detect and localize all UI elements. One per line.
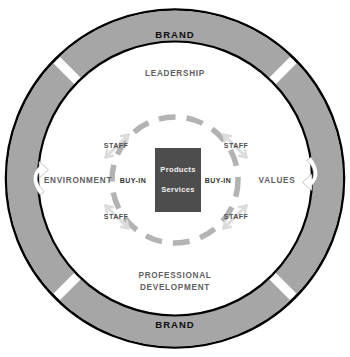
staff-label-top-right: STAFF	[224, 142, 249, 151]
professional-development-label: PROFESSIONAL DEVELOPMENT	[139, 271, 212, 294]
values-label: VALUES	[259, 176, 296, 186]
staff-label-bottom-left: STAFF	[104, 213, 129, 222]
brand-label-top: BRAND	[155, 29, 194, 41]
core-label: Products Services	[160, 165, 195, 195]
core-label-services: Services	[160, 186, 195, 195]
buyin-label-left: BUY-IN	[120, 177, 147, 186]
professional-development-line-1: PROFESSIONAL	[139, 271, 212, 281]
environment-label: ENVIRONMENT	[44, 176, 112, 186]
professional-development-line-2: DEVELOPMENT	[139, 283, 212, 293]
staff-label-top-left: STAFF	[104, 142, 129, 151]
staff-label-bottom-right: STAFF	[224, 213, 249, 222]
diagram-canvas: BRAND BRAND LEADERSHIP ENVIRONMENT VALUE…	[0, 0, 350, 357]
brand-label-bottom: BRAND	[155, 319, 194, 331]
buyin-label-right: BUY-IN	[205, 177, 232, 186]
leadership-label: LEADERSHIP	[145, 69, 205, 79]
core-label-products: Products	[160, 165, 195, 174]
